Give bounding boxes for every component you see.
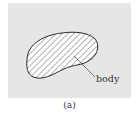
body-label: body <box>96 73 120 84</box>
diagram-figure: body (a) <box>0 0 139 118</box>
figure-caption: (a) <box>0 99 139 111</box>
